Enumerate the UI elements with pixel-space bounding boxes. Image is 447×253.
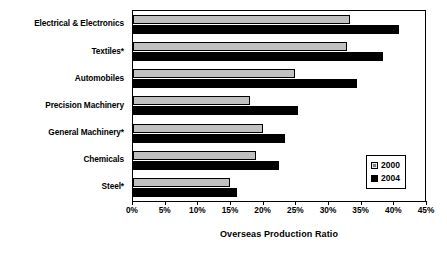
bar-2004 [133, 25, 399, 34]
legend-item-2000: 2000 [371, 159, 400, 172]
bar-2000 [133, 124, 263, 133]
x-tick-label: 15% [222, 206, 239, 214]
x-tick-label: 20% [254, 206, 271, 214]
category-label: Electrical & Electronics [0, 10, 128, 37]
bar-2000 [133, 69, 295, 78]
bar-group [133, 11, 425, 38]
bar-2000 [133, 42, 347, 51]
x-tick-label: 45% [418, 206, 435, 214]
category-axis: Electrical & ElectronicsTextiles*Automob… [0, 10, 128, 200]
x-tick-label: 0% [126, 206, 138, 214]
bar-chart: Electrical & ElectronicsTextiles*Automob… [0, 0, 447, 253]
x-axis-title: Overseas Production Ratio [132, 229, 426, 239]
bar-2004 [133, 161, 279, 170]
bar-group [133, 120, 425, 147]
bar-2004 [133, 188, 237, 197]
bar-2000 [133, 151, 256, 160]
x-axis: 0%5%10%15%20%25%30%35%40%45% [132, 201, 426, 223]
category-label: General Machinery* [0, 119, 128, 146]
x-tick-label: 40% [385, 206, 402, 214]
legend-label-2000: 2000 [381, 161, 400, 170]
chart-legend: 2000 2004 [366, 155, 406, 189]
bar-group [133, 65, 425, 92]
category-label: Automobiles [0, 64, 128, 91]
legend-swatch-2000 [371, 162, 378, 169]
bar-2004 [133, 134, 285, 143]
legend-item-2004: 2004 [371, 172, 400, 185]
x-tick-label: 30% [320, 206, 337, 214]
category-label: Precision Machinery [0, 91, 128, 118]
bar-2004 [133, 106, 298, 115]
legend-label-2004: 2004 [381, 174, 400, 183]
bar-2004 [133, 52, 383, 61]
bar-2000 [133, 96, 250, 105]
legend-swatch-2004 [371, 175, 378, 182]
x-tick-label: 35% [352, 206, 369, 214]
x-tick-label: 25% [287, 206, 304, 214]
bar-2004 [133, 79, 357, 88]
category-label: Chemicals [0, 146, 128, 173]
bar-group [133, 38, 425, 65]
x-tick-label: 5% [159, 206, 171, 214]
x-tick-label: 10% [189, 206, 206, 214]
bar-2000 [133, 15, 350, 24]
category-label: Textiles* [0, 37, 128, 64]
bar-group [133, 92, 425, 119]
bar-2000 [133, 178, 230, 187]
category-label: Steel* [0, 173, 128, 200]
